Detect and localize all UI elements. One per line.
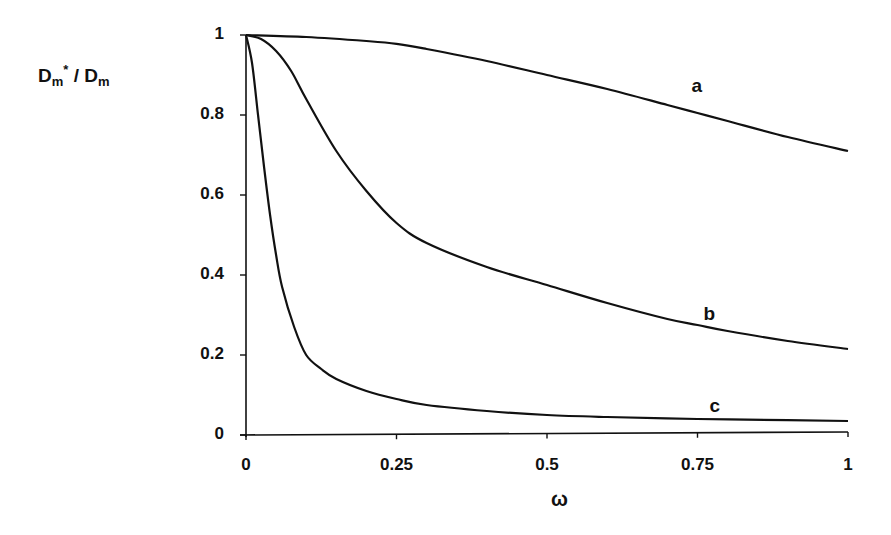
axes	[240, 35, 848, 440]
curve-label-b: b	[704, 303, 716, 325]
x-axis-label: ω	[551, 488, 568, 511]
curve-label-a: a	[692, 75, 703, 97]
y-tick-label: 0.4	[184, 264, 224, 284]
series-line-a	[246, 35, 848, 151]
y-axis-label: Dm* / Dm	[38, 62, 110, 89]
y-tick-label: 0.6	[184, 184, 224, 204]
series-line-b	[246, 35, 848, 349]
y-tick-label: 0.8	[184, 104, 224, 124]
y-tick-label: 0.2	[184, 344, 224, 364]
x-tick-label: 0.75	[668, 455, 728, 475]
y-tick-label: 0	[184, 424, 224, 444]
y-tick-label: 1	[184, 24, 224, 44]
chart-plot-area	[0, 0, 891, 535]
x-tick-label: 1	[818, 455, 878, 475]
curve-label-c: c	[710, 395, 721, 417]
x-tick-label: 0.25	[367, 455, 427, 475]
x-tick-label: 0.5	[517, 455, 577, 475]
data-lines	[246, 35, 848, 421]
series-line-c	[246, 35, 848, 421]
x-tick-label: 0	[216, 455, 276, 475]
